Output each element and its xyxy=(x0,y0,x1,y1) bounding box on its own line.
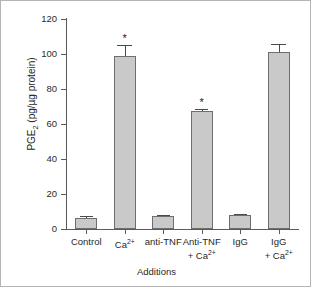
x-axis-tick xyxy=(86,230,87,234)
error-bar-cap xyxy=(117,45,132,46)
x-axis-tick xyxy=(240,230,241,234)
y-axis-tick xyxy=(61,54,66,55)
error-bar-cap xyxy=(234,214,247,215)
x-axis-category-label: IgG+ Ca2+ xyxy=(249,236,309,261)
error-bar-cap xyxy=(157,215,170,216)
bar xyxy=(268,52,290,229)
error-bar-stem xyxy=(125,45,126,56)
y-axis-tick-label: 0 xyxy=(17,224,57,234)
significance-marker: * xyxy=(196,97,208,108)
bar xyxy=(114,56,136,229)
x-axis-tick xyxy=(163,230,164,234)
bar xyxy=(152,216,174,229)
y-axis-tick xyxy=(61,19,66,20)
bar xyxy=(75,218,97,229)
significance-marker: * xyxy=(119,33,131,44)
bar xyxy=(191,111,213,229)
x-axis-line xyxy=(66,229,299,230)
x-axis-title: Additions xyxy=(1,266,311,277)
y-axis-tick xyxy=(61,89,66,90)
error-bar-cap xyxy=(271,44,286,45)
y-axis-tick xyxy=(61,229,66,230)
error-bar-stem xyxy=(279,44,280,52)
plot-area: ** xyxy=(67,19,298,229)
x-axis-tick xyxy=(279,230,280,234)
y-axis-tick xyxy=(61,124,66,125)
error-bar-cap xyxy=(195,109,208,110)
y-axis-title: PGE2 (pg/µg protein) xyxy=(26,9,40,199)
x-axis-tick xyxy=(125,230,126,234)
error-bar-cap xyxy=(80,216,93,217)
figure-panel: 020406080100120 ** ControlCa2+anti-TNFAn… xyxy=(0,0,311,287)
bar xyxy=(229,215,251,229)
y-axis-tick xyxy=(61,194,66,195)
y-axis-tick xyxy=(61,159,66,160)
x-axis-tick xyxy=(202,230,203,234)
